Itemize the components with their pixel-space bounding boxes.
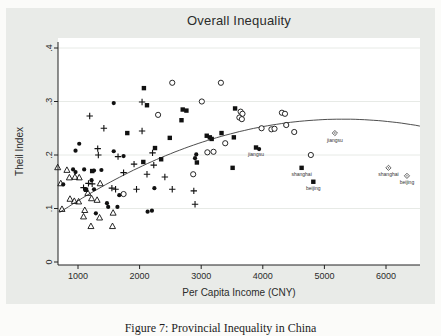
- x-tick-label: 2000: [130, 271, 150, 281]
- open-triangle-marker: [81, 213, 87, 219]
- filled-circle-marker: [117, 193, 121, 197]
- open-triangle-marker: [66, 174, 72, 180]
- plus-marker: [89, 181, 95, 187]
- plus-marker: [192, 201, 198, 207]
- plus-marker: [112, 186, 118, 192]
- open-triangle-marker: [67, 196, 73, 202]
- plus-marker: [191, 188, 197, 194]
- filled-square-marker: [254, 145, 258, 149]
- filled-circle-marker: [194, 152, 198, 156]
- x-tick-label: 1000: [68, 271, 88, 281]
- series-open-circle-markers: [121, 80, 313, 196]
- open-triangle-marker: [94, 197, 100, 203]
- filled-square-marker: [209, 137, 213, 141]
- open-triangle-marker: [88, 223, 94, 229]
- open-circle-marker: [155, 112, 160, 117]
- open-triangle-marker: [97, 214, 103, 220]
- plus-marker: [109, 185, 115, 191]
- labeled-points: jiangsushanghaibeijingjiangsushanghaibei…: [247, 130, 414, 191]
- open-circle-marker: [239, 117, 244, 122]
- open-circle-marker: [282, 111, 287, 116]
- point-label: beijing: [400, 179, 415, 185]
- plus-marker: [139, 99, 145, 105]
- open-triangle-marker: [110, 210, 116, 216]
- point-label: shanghai: [378, 171, 398, 177]
- open-circle-marker: [211, 149, 216, 154]
- filled-square-marker: [168, 136, 172, 140]
- filled-square-marker: [299, 166, 303, 170]
- open-triangle-marker: [89, 195, 95, 201]
- filled-square-marker: [153, 146, 157, 150]
- filled-circle-marker: [82, 167, 86, 171]
- chart-figure: Overall Inequality jiangsushanghaibeijin…: [6, 8, 435, 304]
- filled-circle-marker: [121, 154, 125, 158]
- y-tick-label: .1: [44, 205, 54, 213]
- fitted-curve: [60, 119, 420, 212]
- open-triangle-marker: [82, 207, 88, 213]
- open-triangle-marker: [97, 180, 103, 186]
- open-triangle-marker: [64, 167, 70, 173]
- series-plus-markers: [80, 99, 198, 208]
- plus-marker: [115, 153, 121, 159]
- filled-circle-marker: [106, 205, 110, 209]
- point-label: beijing: [306, 185, 321, 191]
- open-circle-marker: [218, 80, 223, 85]
- open-circle-marker: [292, 129, 297, 134]
- filled-square-marker: [184, 108, 188, 112]
- filled-circle-marker: [92, 187, 96, 191]
- filled-circle-marker: [73, 170, 77, 174]
- y-tick-label: .4: [44, 44, 54, 52]
- open-circle-marker: [259, 126, 264, 131]
- filled-square-marker: [145, 103, 149, 107]
- filled-circle-marker: [73, 149, 77, 153]
- plus-marker: [101, 125, 107, 131]
- filled-circle-marker: [112, 101, 116, 105]
- open-circle-marker: [272, 126, 277, 131]
- filled-square-marker: [125, 131, 129, 135]
- y-tick-label: .3: [44, 98, 54, 106]
- filled-square-marker: [195, 160, 199, 164]
- diamond-center-dot: [334, 132, 335, 133]
- open-circle-marker: [223, 141, 228, 146]
- chart-canvas: jiangsushanghaibeijingjiangsushanghaibei…: [6, 8, 435, 304]
- filled-square-marker: [159, 157, 163, 161]
- y-tick-label: 0: [44, 259, 54, 264]
- point-label: jiangsu: [326, 137, 343, 143]
- x-tick-label: 4000: [253, 271, 273, 281]
- x-tick-label: 6000: [376, 271, 396, 281]
- point-label: jiangsu: [247, 151, 264, 157]
- plus-marker: [151, 162, 157, 168]
- open-triangle-marker: [109, 223, 115, 229]
- filled-square-marker: [90, 169, 94, 173]
- diamond-center-dot: [406, 175, 407, 176]
- filled-circle-marker: [146, 210, 150, 214]
- filled-circle-marker: [105, 201, 109, 205]
- plus-marker: [95, 145, 101, 151]
- filled-square-marker: [219, 131, 223, 135]
- filled-circle-marker: [77, 142, 81, 146]
- filled-square-marker: [232, 135, 236, 139]
- point-label: shanghai: [291, 171, 311, 177]
- filled-circle-marker: [150, 209, 154, 213]
- open-circle-marker: [199, 99, 204, 104]
- y-axis-title: Theil Index: [14, 127, 25, 176]
- filled-circle-marker: [193, 156, 197, 160]
- filled-square-marker: [142, 86, 146, 90]
- plus-marker: [144, 171, 150, 177]
- filled-square-marker: [311, 180, 315, 184]
- plus-marker: [120, 169, 126, 175]
- plus-marker: [95, 152, 101, 158]
- x-tick-label: 3000: [191, 271, 211, 281]
- filled-circle-marker: [115, 205, 119, 209]
- open-circle-marker: [170, 80, 175, 85]
- filled-square-marker: [84, 188, 88, 192]
- filled-circle-marker: [89, 178, 93, 182]
- filled-circle-marker: [99, 168, 103, 172]
- filled-square-marker: [205, 134, 209, 138]
- filled-square-marker: [141, 160, 145, 164]
- y-tick-label: .2: [44, 151, 54, 159]
- plus-marker: [87, 113, 93, 119]
- x-tick-label: 5000: [314, 271, 334, 281]
- plus-marker: [162, 174, 168, 180]
